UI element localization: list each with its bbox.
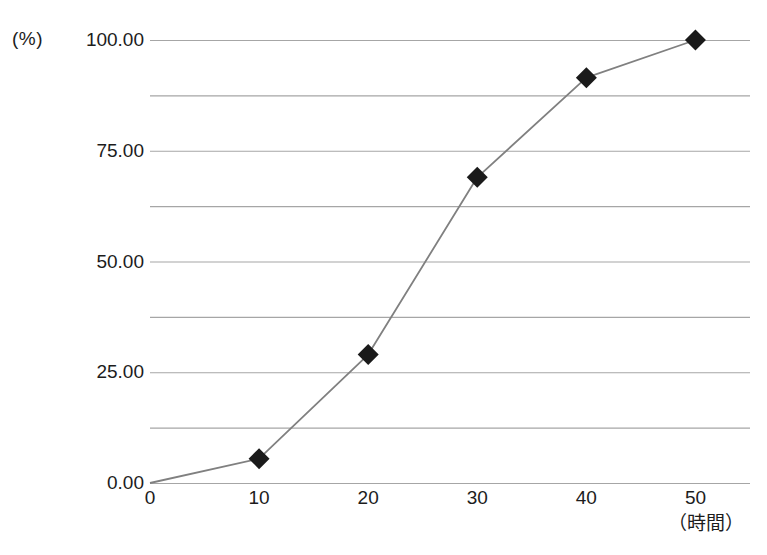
x-tick-label: 0: [145, 487, 156, 509]
line-chart: (%) 0.0025.0050.0075.00100.00 0102030405…: [0, 0, 767, 555]
x-tick-label: 40: [576, 487, 597, 509]
x-axis-unit-label: （時間）: [668, 508, 744, 535]
x-axis-tick-labels: 01020304050: [0, 0, 767, 555]
x-tick-label: 10: [249, 487, 270, 509]
x-tick-label: 50: [685, 487, 706, 509]
x-tick-label: 30: [467, 487, 488, 509]
x-tick-label: 20: [358, 487, 379, 509]
